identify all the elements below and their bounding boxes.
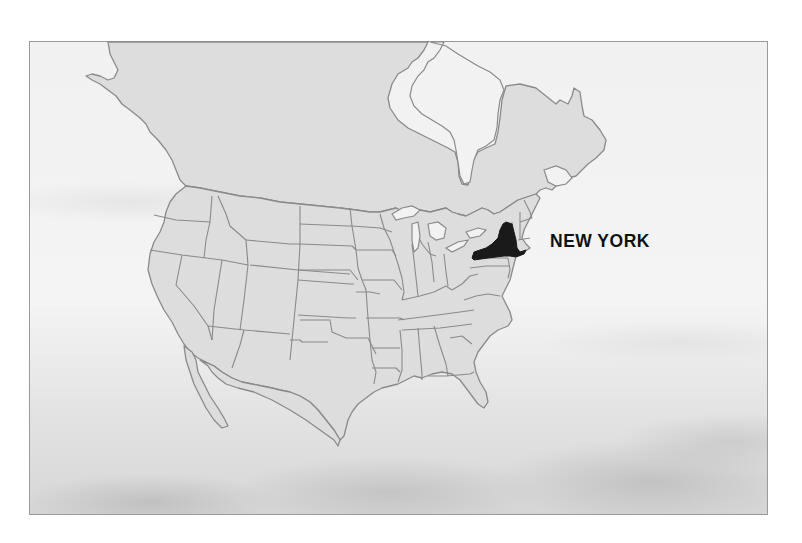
north-america-map — [0, 0, 802, 543]
canada-region — [86, 42, 606, 216]
map-stage: NEW YORK — [0, 0, 802, 543]
new-york-label: NEW YORK — [550, 231, 650, 252]
